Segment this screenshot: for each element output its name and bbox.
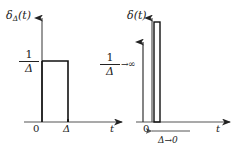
right-x-axis-label: t bbox=[216, 124, 220, 134]
fraction-denominator: Δ bbox=[19, 62, 39, 74]
left-origin-label: 0 bbox=[33, 124, 39, 134]
impulse-rectangle bbox=[154, 22, 160, 122]
y-tick-one-over-delta: 1 Δ bbox=[19, 49, 39, 74]
delta-function-figure: δΔ(t) δ(t) 1 Δ 1 Δ →∞ 0 Δ t 0 t Δ→0 bbox=[0, 0, 235, 152]
right-impulse-spike bbox=[154, 22, 160, 122]
right-function-arg: (t) bbox=[134, 9, 147, 22]
limit-fraction: 1 Δ bbox=[100, 52, 120, 77]
pulse-outline bbox=[42, 61, 68, 122]
left-x-axis-label: t bbox=[110, 124, 114, 134]
left-function-label: δΔ(t) bbox=[6, 10, 31, 23]
limit-fraction-denominator: Δ bbox=[100, 65, 120, 77]
fraction-numerator: 1 bbox=[19, 49, 39, 61]
left-pulse-curve bbox=[42, 61, 68, 122]
limit-infinity-annotation: →∞ bbox=[121, 60, 135, 69]
left-delta-tick-label: Δ bbox=[63, 124, 70, 134]
right-panel-axes bbox=[136, 18, 230, 122]
right-function-label: δ(t) bbox=[127, 10, 147, 21]
left-function-arg: (t) bbox=[18, 9, 31, 22]
right-origin-label: 0 bbox=[143, 124, 149, 134]
limit-fraction-numerator: 1 bbox=[100, 52, 120, 64]
delta-to-zero-annotation: Δ→0 bbox=[158, 136, 178, 145]
